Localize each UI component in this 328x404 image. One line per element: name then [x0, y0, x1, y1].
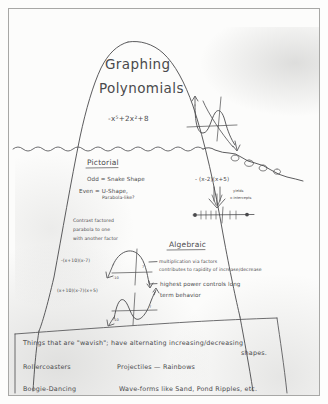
scanned-paper: Graphing Polynomials -x⁵+2x²+8: [8, 8, 320, 396]
cubic-x-axis: [112, 310, 157, 311]
factored-expression: - (x-2)(x+5): [195, 176, 229, 182]
cubic-tick-right: 7: [149, 305, 151, 309]
contrast-note-line-1: Contrast factored: [73, 218, 114, 223]
number-line: [193, 207, 254, 223]
pictorial-line-2: Even = U-Shape,: [79, 188, 128, 195]
title-block: Graphing Polynomials -x⁵+2x²+8: [99, 56, 184, 123]
pictorial-line-3: Parabola-like?: [102, 195, 135, 200]
example-cubic: (x+10)(x-7)(x+5) -10 7: [57, 288, 159, 326]
bottom-item-waveforms: Wave-forms like Sand, Pond Ripples, etc.: [119, 385, 257, 393]
bottom-item-projectiles: Projectiles — Rainbows: [117, 363, 196, 371]
cubic-tick-left: -10: [113, 318, 120, 322]
cubic-y-axis: [133, 293, 135, 325]
bottom-summary-line-1: Things that are "wavish"; have alternati…: [22, 339, 243, 347]
algebraic-section: Algebraic multiplication via factors con…: [149, 240, 262, 298]
root-marker-left: [193, 213, 197, 217]
bottom-summary-line-2: shapes.: [241, 349, 267, 357]
iceberg-diagram: Graphing Polynomials -x⁵+2x²+8: [9, 9, 319, 395]
pictorial-section: Pictorial Odd = Snake Shape Even = U-Sha…: [79, 158, 145, 200]
screenshot-root: Graphing Polynomials -x⁵+2x²+8: [0, 0, 328, 404]
root-marker-right: [245, 213, 249, 217]
pictorial-heading: Pictorial: [87, 158, 119, 167]
algebraic-heading: Algebraic: [169, 240, 206, 249]
example-quadratic: -(x+10)(x-7) -10 7: [61, 249, 153, 288]
algebraic-bullet-1-line-2: contributes to rapidity of increase/decr…: [159, 267, 262, 272]
quadratic-x-axis: [112, 272, 152, 273]
factored-to-intercepts: - (x-2)(x+5) yields x-intercepts: [193, 176, 254, 223]
water-line: [13, 147, 303, 181]
bottom-text-block: Things that are "wavish"; have alternati…: [22, 339, 267, 393]
quintic-sketch-graph: [187, 96, 240, 151]
yields-label-line-2: x-intercepts: [230, 196, 252, 200]
algebraic-bullet-2-line-1: highest power controls long: [160, 281, 241, 288]
quadratic-tick-left: -10: [113, 276, 120, 280]
contrast-note-line-2: parabola to one: [73, 227, 110, 232]
big-down-arrow-icon: [209, 187, 225, 208]
bottom-item-boogie: Boogie-Dancing: [23, 385, 76, 393]
pictorial-line-1: Odd = Snake Shape: [87, 176, 145, 183]
title-line-2: Polynomials: [99, 80, 184, 96]
contrast-note-line-3: with another factor: [73, 236, 118, 241]
title-line-1: Graphing: [105, 56, 171, 72]
title-equation: -x⁵+2x²+8: [108, 114, 149, 123]
quadratic-y-axis: [135, 249, 137, 285]
algebraic-bullet-2-line-2: term behavior: [160, 292, 202, 298]
yields-label-line-1: yields: [233, 189, 244, 193]
contrast-note: Contrast factored parabola to one with a…: [73, 218, 118, 241]
quadratic-expression: -(x+10)(x-7): [61, 258, 90, 263]
bottom-item-rollercoasters: Rollercoasters: [23, 363, 71, 371]
cubic-expression: (x+10)(x-7)(x+5): [57, 288, 98, 293]
quadratic-tick-right: 7: [142, 265, 144, 269]
algebraic-bullet-1-line-1: multiplication via factors: [159, 259, 218, 264]
